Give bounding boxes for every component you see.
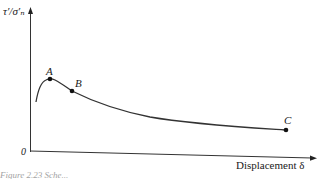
y-axis-arrow-icon — [28, 7, 33, 14]
point-b-marker — [70, 89, 75, 94]
point-a-label: A — [46, 66, 53, 77]
figure-canvas — [0, 0, 321, 179]
point-c-marker — [284, 128, 289, 133]
stress-displacement-curve — [36, 79, 285, 130]
point-a-marker — [48, 77, 53, 82]
point-c-label: C — [284, 115, 291, 126]
x-axis — [30, 151, 312, 158]
y-axis-label: τ′/σ′ₙ — [3, 6, 25, 17]
x-axis-arrow-icon — [310, 156, 317, 161]
x-axis-label: Displacement δ — [236, 160, 304, 171]
figure-caption: Figure 2.23 Sche... — [0, 171, 68, 179]
point-b-label: B — [75, 78, 82, 89]
origin-label: 0 — [21, 147, 26, 157]
